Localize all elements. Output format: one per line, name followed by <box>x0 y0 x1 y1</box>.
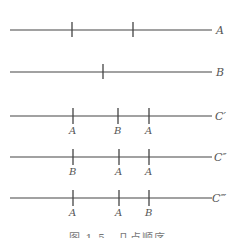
line-c-prime: A B A C′ <box>10 108 226 136</box>
tick-label: A <box>114 166 122 177</box>
tick-label: A <box>144 166 152 177</box>
line-c-double-prime: B A A C″ <box>10 149 227 177</box>
tick-label: B <box>113 125 121 136</box>
line-a: A <box>10 22 224 37</box>
tick-label: A <box>144 125 152 136</box>
line-label: C″ <box>214 151 227 164</box>
line-label: C‴ <box>212 192 226 205</box>
line-label: B <box>215 66 224 79</box>
point-order-diagram: A B A B A C′ B A A C″ <box>0 0 235 238</box>
diagram-canvas: A B A B A C′ B A A C″ <box>0 0 235 238</box>
line-b: B <box>10 64 224 79</box>
tick-label: A <box>68 125 76 136</box>
line-c-triple-prime: A A B C‴ <box>10 190 226 218</box>
line-label: A <box>215 24 224 37</box>
tick-label: B <box>68 166 76 177</box>
figure-caption: 图 1.5 几点顺序 <box>0 229 235 238</box>
tick-label: A <box>114 207 122 218</box>
tick-label: A <box>68 207 76 218</box>
line-label: C′ <box>215 110 226 123</box>
tick-label: B <box>144 207 152 218</box>
